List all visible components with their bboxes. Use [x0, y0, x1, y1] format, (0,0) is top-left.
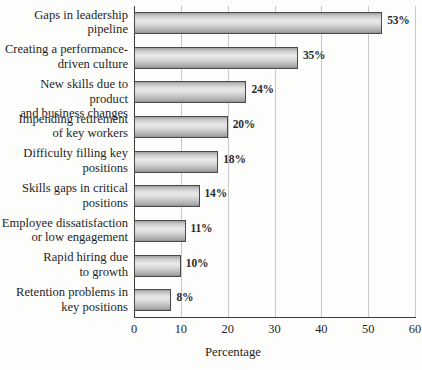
bar-value-label: 10% — [186, 257, 208, 269]
bar[interactable] — [134, 12, 382, 34]
bar[interactable] — [134, 255, 181, 277]
category-label-line: Difficulty filling key — [0, 146, 128, 161]
category-label-line: Rapid hiring due — [0, 250, 128, 265]
bar-value-label: 20% — [233, 118, 255, 130]
x-tick-label: 10 — [175, 322, 187, 337]
category-label-line: of key workers — [0, 126, 128, 141]
x-tick-label: 30 — [268, 322, 280, 337]
category-label: Rapid hiring dueto growth — [0, 250, 128, 279]
category-label: Employee dissatisfactionor low engagemen… — [0, 216, 128, 245]
category-label-line: or low engagement — [0, 230, 128, 245]
bar[interactable] — [134, 81, 246, 103]
category-label-line: Skills gaps in critical — [0, 181, 128, 196]
x-tick-label: 40 — [315, 322, 327, 337]
bar-chart: 53%35%24%20%18%14%11%10%8% Gaps in leade… — [0, 0, 422, 370]
category-label-line: positions — [0, 196, 128, 211]
category-label: Retention problems inkey positions — [0, 285, 128, 314]
x-tick-label: 60 — [409, 322, 421, 337]
category-label-line: Retention problems in — [0, 285, 128, 300]
category-label: Impending retirementof key workers — [0, 112, 128, 141]
x-tick-label: 0 — [131, 322, 137, 337]
category-label-line: driven culture — [0, 57, 128, 72]
bar[interactable] — [134, 185, 200, 207]
category-label-line: Gaps in leadership — [0, 8, 128, 23]
category-label-line: Creating a performance- — [0, 42, 128, 57]
category-label-line: to growth — [0, 265, 128, 280]
bar-value-label: 53% — [387, 14, 409, 26]
category-label-line: pipeline — [0, 22, 128, 37]
category-label-line: positions — [0, 161, 128, 176]
category-label-line: Impending retirement — [0, 112, 128, 127]
bar[interactable] — [134, 151, 218, 173]
bar-value-label: 14% — [205, 187, 227, 199]
category-label: Gaps in leadershippipeline — [0, 8, 128, 37]
x-tick-label: 50 — [362, 322, 374, 337]
x-axis-title-text: Percentage — [205, 345, 261, 360]
category-label: Creating a performance-driven culture — [0, 42, 128, 71]
category-label-line: key positions — [0, 300, 128, 315]
bar[interactable] — [134, 220, 186, 242]
x-tick-label: 20 — [221, 322, 233, 337]
bar[interactable] — [134, 47, 298, 69]
x-axis-title: Percentage — [0, 345, 422, 360]
category-label-line: Employee dissatisfaction — [0, 216, 128, 231]
bar-value-label: 24% — [251, 83, 273, 95]
category-label-line: New skills due to product — [0, 77, 128, 106]
bar[interactable] — [134, 116, 228, 138]
bar-value-label: 35% — [303, 49, 325, 61]
category-label: Difficulty filling keypositions — [0, 146, 128, 175]
bar[interactable] — [134, 289, 171, 311]
bar-value-label: 8% — [176, 291, 193, 303]
category-label: Skills gaps in criticalpositions — [0, 181, 128, 210]
bar-value-label: 18% — [223, 153, 245, 165]
bar-value-label: 11% — [191, 222, 213, 234]
